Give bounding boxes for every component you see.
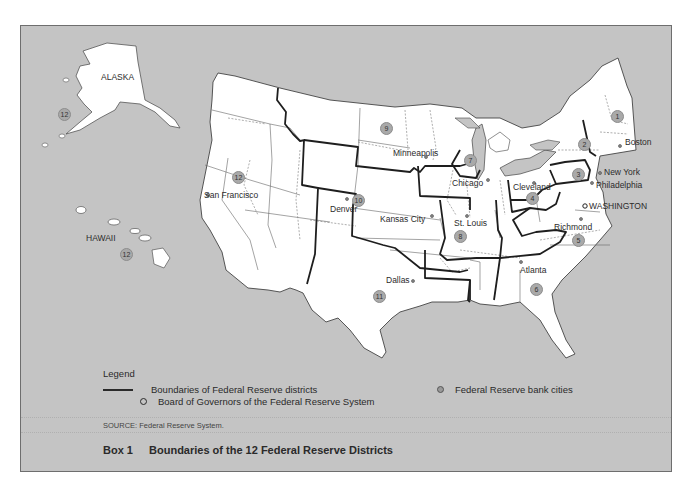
legend-item-board: Board of Governors of the Federal Reserv… <box>103 396 375 407</box>
city-label-chicago: Chicago <box>452 179 483 188</box>
district-badge-12: 12 <box>232 171 245 184</box>
caption-title: Boundaries of the 12 Federal Reserve Dis… <box>149 444 393 456</box>
city-label-san-francisco: San Francisco <box>204 191 258 200</box>
thick-line-icon <box>103 389 133 391</box>
district-badge-3: 3 <box>572 168 585 181</box>
washington-ring <box>583 204 587 208</box>
district-badge-2: 2 <box>578 138 591 151</box>
city-label-cleveland: Cleveland <box>513 183 551 192</box>
legend-item-bank-cities: Federal Reserve bank cities <box>437 384 573 395</box>
city-label-kansas-city: Kansas City <box>380 215 425 224</box>
district-badge-7: 7 <box>464 154 477 167</box>
city-label-philadelphia: Philadelphia <box>596 181 642 190</box>
city-label-atlanta: Atlanta <box>520 266 546 275</box>
filled-dot-icon <box>437 386 444 393</box>
city-label-minneapolis: Minneapolis <box>393 149 438 158</box>
legend-label: Federal Reserve bank cities <box>455 384 573 395</box>
district-badge-4: 4 <box>526 192 539 205</box>
district-badge-hawaii: 12 <box>120 248 133 261</box>
city-label-denver: Denver <box>330 205 357 214</box>
district-badge-1: 1 <box>611 110 624 123</box>
caption-label: Box 1 <box>103 444 133 456</box>
hawaii-label: HAWAII <box>86 234 116 243</box>
city-label-st-louis: St. Louis <box>454 219 487 228</box>
city-label-washington: WASHINGTON <box>589 202 647 211</box>
open-circle-icon <box>140 398 147 405</box>
contiguous-us-shape <box>200 58 636 358</box>
city-label-new-york: New York <box>604 168 640 177</box>
alaska-label: ALASKA <box>101 73 134 82</box>
city-label-dallas: Dallas <box>386 276 410 285</box>
source-note: SOURCE: Federal Reserve System. <box>103 421 224 430</box>
alaska-shape <box>66 43 180 134</box>
city-label-richmond: Richmond <box>554 223 592 232</box>
district-badge-alaska: 12 <box>58 108 71 121</box>
divider <box>21 432 671 433</box>
legend-item-boundaries: Boundaries of Federal Reserve districts <box>103 384 317 395</box>
figure-caption: Box 1 Boundaries of the 12 Federal Reser… <box>103 444 393 456</box>
legend-label: Boundaries of Federal Reserve districts <box>151 384 317 395</box>
district-badge-6: 6 <box>530 283 543 296</box>
legend-title: Legend <box>103 368 135 379</box>
district-badge-11: 11 <box>373 290 386 303</box>
district-badge-5: 5 <box>572 234 585 247</box>
district-badge-8: 8 <box>454 230 467 243</box>
city-label-boston: Boston <box>625 138 651 147</box>
legend-label: Board of Governors of the Federal Reserv… <box>158 396 375 407</box>
district-badge-9: 9 <box>380 122 393 135</box>
divider <box>21 417 671 418</box>
